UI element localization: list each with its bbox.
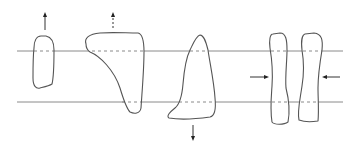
arrow-down-icon	[191, 125, 195, 141]
shape-fills	[33, 33, 322, 125]
reference-lines	[17, 51, 343, 102]
arrow-left-icon	[322, 75, 340, 79]
arrow-up-icon	[43, 12, 47, 30]
arrow-right-icon	[250, 75, 269, 79]
arrow-up-dashed-icon	[111, 12, 115, 28]
diagram-figure	[0, 0, 357, 146]
